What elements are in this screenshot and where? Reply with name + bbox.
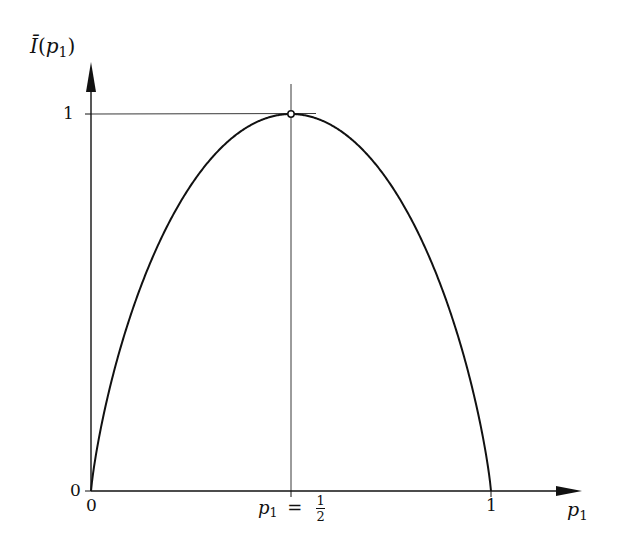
entropy-chart (0, 0, 629, 552)
y-axis-label: Ī(p1) (30, 36, 75, 59)
x-tick-label-0: 0 (86, 497, 97, 514)
y-axis-arrow-icon (86, 62, 96, 92)
x-tick-label-half: p1 = 12 (258, 494, 325, 523)
x-axis-arrow-icon (556, 486, 582, 496)
x-axis-label: p1 (567, 500, 588, 522)
y-tick-label-1: 1 (63, 105, 74, 122)
guide-lines (91, 84, 316, 491)
x-tick-label-1: 1 (486, 497, 497, 514)
peak-marker (288, 111, 294, 117)
fraction-one-half: 12 (316, 494, 325, 523)
y-tick-label-0: 0 (70, 482, 81, 499)
